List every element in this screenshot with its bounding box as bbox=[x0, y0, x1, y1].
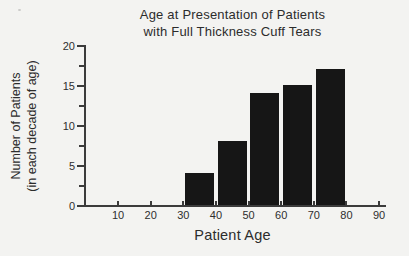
x-tick-label-10: 10 bbox=[103, 209, 133, 221]
y-tick-mark-20 bbox=[77, 45, 84, 47]
x-tick-mark-20 bbox=[150, 201, 152, 205]
y-axis-title-line1: Number of Patients bbox=[8, 11, 24, 241]
x-axis-title: Patient Age bbox=[85, 227, 380, 243]
bar-chart-figure: Age at Presentation of Patients with Ful… bbox=[0, 0, 409, 256]
y-tick-label-20: 20 bbox=[45, 40, 75, 53]
x-tick-mark-60 bbox=[280, 201, 282, 205]
bar-40s bbox=[218, 141, 247, 205]
bar-70s bbox=[316, 69, 345, 205]
x-tick-label-80: 80 bbox=[331, 209, 361, 221]
y-tick-mark-5 bbox=[77, 165, 84, 167]
y-tick-label-10: 10 bbox=[45, 120, 75, 133]
x-tick-label-40: 40 bbox=[201, 209, 231, 221]
chart-title-line1: Age at Presentation of Patients bbox=[85, 6, 380, 23]
x-tick-label-90: 90 bbox=[364, 209, 394, 221]
y-minor-tick-mark-2.5 bbox=[79, 185, 84, 187]
x-tick-label-20: 20 bbox=[136, 209, 166, 221]
x-tick-label-60: 60 bbox=[266, 209, 296, 221]
y-axis-title: Number of Patients (in each decade of ag… bbox=[8, 11, 40, 241]
y-minor-tick-mark-12.5 bbox=[79, 105, 84, 107]
y-tick-mark-15 bbox=[77, 85, 84, 87]
x-tick-label-70: 70 bbox=[299, 209, 329, 221]
y-tick-label-0: 0 bbox=[45, 200, 75, 213]
y-minor-tick-mark-7.5 bbox=[79, 145, 84, 147]
x-tick-mark-10 bbox=[117, 201, 119, 205]
chart-title: Age at Presentation of Patients with Ful… bbox=[85, 6, 380, 40]
y-tick-label-5: 5 bbox=[45, 160, 75, 173]
bar-60s bbox=[283, 85, 312, 205]
y-tick-mark-0 bbox=[77, 205, 84, 207]
x-tick-label-50: 50 bbox=[234, 209, 264, 221]
x-tick-mark-80 bbox=[345, 201, 347, 205]
y-axis-line bbox=[84, 45, 86, 207]
chart-title-line2: with Full Thickness Cuff Tears bbox=[85, 23, 380, 40]
x-tick-label-30: 30 bbox=[168, 209, 198, 221]
x-tick-mark-40 bbox=[215, 201, 217, 205]
bar-50s bbox=[250, 93, 279, 205]
y-axis-title-line2: (in each decade of age) bbox=[24, 11, 40, 241]
y-minor-tick-mark-17.5 bbox=[79, 65, 84, 67]
x-tick-mark-30 bbox=[182, 201, 184, 205]
x-tick-mark-50 bbox=[248, 201, 250, 205]
x-tick-mark-70 bbox=[313, 201, 315, 205]
x-tick-mark-90 bbox=[378, 201, 380, 205]
bar-30s bbox=[185, 173, 214, 205]
y-tick-label-15: 15 bbox=[45, 80, 75, 93]
y-tick-mark-10 bbox=[77, 125, 84, 127]
x-axis-line bbox=[84, 205, 386, 207]
